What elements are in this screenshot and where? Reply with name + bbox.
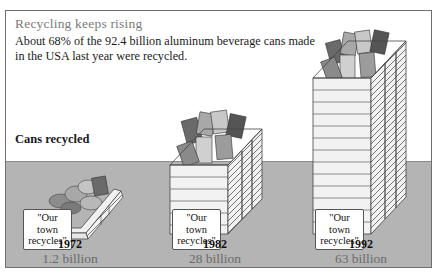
amount-label-1992: 63 billion xyxy=(311,251,411,267)
year-label-1982: 1982 xyxy=(175,237,255,252)
year-label-1972: 1972 xyxy=(30,237,110,252)
amount-label-1972: 1.2 billion xyxy=(20,251,120,267)
crate-1992 xyxy=(313,30,406,234)
year-label-1992: 1992 xyxy=(321,237,401,252)
amount-label-1982: 28 billion xyxy=(165,251,265,267)
infographic-frame: Recycling keeps rising About 68% of the … xyxy=(5,10,432,268)
